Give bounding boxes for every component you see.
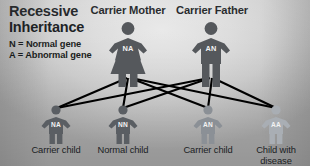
father-leg-right: [213, 62, 221, 87]
child-1-genotype: NA: [51, 121, 61, 128]
child-2-leg-left: [117, 132, 122, 144]
child-1-head: [51, 105, 60, 114]
child-4-head: [271, 105, 280, 114]
mother-leg-left: [119, 73, 127, 87]
child-4-leg-left: [270, 132, 275, 144]
child-1-leg-left: [50, 132, 55, 144]
child-2-genotype: NN: [118, 121, 128, 128]
figure-carrier-father: AN: [192, 22, 230, 87]
family-figures: NA AN NA NN: [0, 0, 310, 166]
child-3-head: [203, 105, 212, 114]
father-genotype: AN: [205, 44, 216, 53]
father-leg-left: [202, 62, 210, 87]
figure-carrier-mother: NA: [109, 22, 147, 87]
child-3-leg-left: [202, 132, 207, 144]
mother-skirt: [111, 58, 146, 74]
child-4-genotype: AA: [271, 121, 281, 128]
recessive-inheritance-diagram: Recessive Inheritance N = Normal gene A …: [0, 0, 310, 166]
figure-child-3: AN: [194, 105, 223, 144]
mother-head: [122, 22, 135, 35]
child-1-leg-right: [57, 132, 62, 144]
child-4-leg-right: [277, 132, 282, 144]
child-3-leg-right: [209, 132, 214, 144]
mother-genotype: NA: [122, 44, 134, 53]
figure-child-1: NA: [42, 105, 71, 144]
child-3-genotype: AN: [203, 121, 213, 128]
child-2-leg-right: [124, 132, 129, 144]
figure-child-4: AA: [262, 105, 291, 144]
child-2-head: [118, 105, 127, 114]
mother-leg-right: [130, 73, 138, 87]
father-head: [205, 22, 218, 35]
figure-child-2: NN: [109, 105, 138, 144]
